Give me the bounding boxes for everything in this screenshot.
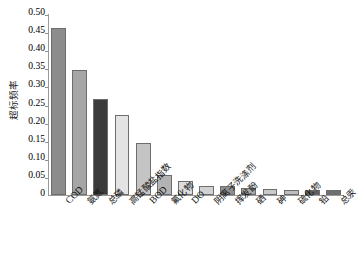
y-axis-tick-label: 0.20: [28, 114, 45, 125]
x-axis-tick-label: 阴离子洗涤剂: [211, 198, 220, 207]
x-axis-tick-label: COD: [63, 198, 71, 206]
bar: [115, 115, 130, 195]
x-axis-tick-label: 氟化物: [168, 198, 177, 207]
y-axis-tick-mark: [45, 87, 48, 88]
x-axis-tick-label: 硫化物: [295, 198, 304, 207]
y-axis-tick-label: 0.25: [28, 96, 45, 107]
x-axis-tick-label: 高锰酸盐指数: [126, 198, 135, 207]
bar: [72, 70, 87, 195]
bar-chart-figure: 超标频率 00.050.100.150.200.250.300.350.400.…: [0, 0, 357, 263]
bar: [284, 190, 299, 195]
y-axis-tick-mark: [45, 33, 48, 34]
y-axis-tick-label: 0.05: [28, 168, 45, 179]
y-axis-tick-mark: [45, 124, 48, 125]
y-axis-tick-label: 0.45: [28, 24, 45, 35]
x-axis-tick-label: 铅: [316, 198, 325, 207]
y-axis-tick-labels: 00.050.100.150.200.250.300.350.400.450.5…: [17, 10, 45, 200]
bar: [51, 28, 66, 195]
x-axis-tick-labels: COD氨氮总磷高锰酸盐指数BOD氟化物DO阴离子洗涤剂挥发酚硒砷硫化物铅总汞: [48, 198, 344, 262]
plot-area: [48, 14, 344, 196]
y-axis-tick-mark: [45, 160, 48, 161]
y-axis-tick-label: 0.40: [28, 42, 45, 53]
y-axis-tick-mark: [45, 51, 48, 52]
x-axis-tick-label: 挥发酚: [232, 198, 241, 207]
x-axis-tick-label: DO: [189, 198, 197, 206]
bar: [326, 190, 341, 195]
y-axis-tick-mark: [45, 178, 48, 179]
y-axis-tick-label: 0.35: [28, 60, 45, 71]
x-axis-tick-label: 总汞: [337, 198, 346, 207]
y-axis-tick-mark: [45, 142, 48, 143]
x-axis-tick-label: 总磷: [105, 198, 114, 207]
x-axis-tick-label: BOD: [147, 198, 155, 206]
y-axis-tick-mark: [45, 106, 48, 107]
y-axis-tick-label: 0.15: [28, 132, 45, 143]
bar: [263, 189, 278, 195]
x-axis-tick-label: 硒: [253, 198, 262, 207]
x-axis-tick-label: 砷: [274, 198, 283, 207]
y-axis-tick-label: 0.30: [28, 78, 45, 89]
y-axis-tick-mark: [45, 15, 48, 16]
bar: [93, 99, 108, 195]
bar-series: [48, 14, 344, 195]
y-axis-tick-mark: [45, 69, 48, 70]
y-axis-tick-label: 0: [40, 187, 45, 198]
y-axis-tick-label: 0.50: [28, 6, 45, 17]
y-axis-tick-label: 0.10: [28, 150, 45, 161]
x-axis-tick-label: 氨氮: [84, 198, 93, 207]
